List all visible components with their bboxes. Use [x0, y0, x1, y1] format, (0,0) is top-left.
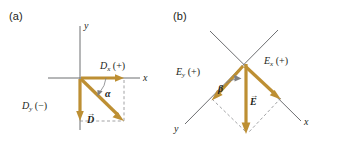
dashed-guide-left	[212, 99, 247, 133]
beta-angle-label: β	[218, 83, 223, 94]
d-vector-symbol: D	[87, 114, 94, 125]
ex-sign: (+)	[276, 55, 288, 66]
ey-sign: (+)	[188, 66, 200, 77]
ex-component-arrow	[245, 66, 275, 94]
dx-sign: (+)	[113, 60, 125, 71]
dx-component-label: Dx (+)	[100, 60, 125, 73]
ex-component-label: Ex (+)	[264, 55, 288, 68]
dy-arrowhead	[76, 111, 84, 121]
dx-subscript: x	[107, 65, 110, 73]
dy-subscript: y	[29, 105, 32, 113]
resultant-d-label: → D	[87, 112, 95, 125]
resultant-e-label: → E	[250, 94, 258, 107]
rotated-x-axis-label: x	[304, 116, 308, 127]
panel-b: (b) x y Ex (+)	[168, 0, 341, 154]
alpha-angle-label: α	[105, 88, 111, 99]
rotated-y-axis-label: y	[174, 123, 178, 134]
resultant-e-arrowhead	[242, 123, 251, 135]
beta-arc-arrowhead	[234, 75, 241, 82]
panel-a: (a) x y Dx (+)	[0, 0, 168, 154]
vector-components-figure: (a) x y Dx (+)	[0, 0, 341, 154]
x-axis-label: x	[143, 72, 147, 83]
dy-component-label: Dy (−)	[22, 100, 47, 113]
e-vector-symbol: E	[250, 96, 257, 107]
ex-subscript: x	[270, 60, 273, 68]
ey-subscript: y	[182, 71, 185, 79]
dy-sign: (−)	[35, 100, 47, 111]
ey-component-label: Ey (+)	[176, 66, 200, 79]
y-axis-label: y	[84, 20, 88, 31]
dx-arrowhead	[115, 74, 124, 82]
